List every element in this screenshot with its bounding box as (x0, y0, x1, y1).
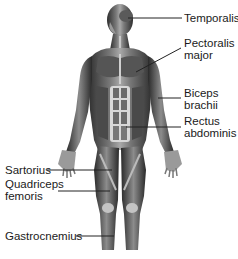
head (107, 4, 133, 36)
label-text: Gastrocnemius (5, 230, 82, 242)
label-text: Pectoralis (184, 37, 235, 49)
torso (88, 48, 152, 150)
label-text: Quadriceps (5, 178, 64, 190)
label-text: Biceps (184, 87, 219, 99)
left-leg (94, 146, 119, 250)
label-text: Temporalis (184, 12, 238, 24)
left-hand (58, 150, 76, 178)
label-text: femoris (5, 190, 64, 202)
label-gastrocnemius: Gastrocnemius (5, 230, 82, 242)
label-text: major (184, 49, 235, 61)
left-arm (66, 56, 92, 154)
label-biceps-brachii: Biceps brachii (184, 87, 219, 111)
label-text: Sartorius (5, 164, 51, 176)
label-text: abdominis (184, 127, 236, 139)
label-text: Rectus (184, 115, 236, 127)
label-sartorius: Sartorius (5, 164, 51, 176)
label-rectus-abdominis: Rectus abdominis (184, 115, 236, 139)
label-text: brachii (184, 99, 219, 111)
muscle-diagram: Temporalis Pectoralis major Biceps brach… (0, 0, 238, 259)
label-temporalis: Temporalis (184, 12, 238, 24)
right-hand (164, 150, 182, 178)
label-pectoralis-major: Pectoralis major (184, 37, 235, 61)
right-leg (121, 146, 146, 250)
right-arm (148, 56, 174, 154)
label-quadriceps-femoris: Quadriceps femoris (5, 178, 64, 202)
